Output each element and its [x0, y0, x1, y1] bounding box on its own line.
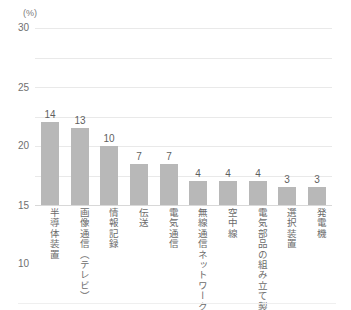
- category-label: 情報記録: [100, 208, 118, 250]
- bar-value-label: 3: [284, 175, 290, 185]
- bar: [41, 122, 59, 205]
- bar-value-label: 13: [74, 116, 85, 126]
- category-label: 電気部品の組み立て製造: [249, 208, 267, 310]
- category-label: 空中線: [219, 208, 237, 239]
- bar-group: 4: [219, 28, 237, 205]
- y-axis-tick-label: 30: [18, 23, 29, 33]
- y-axis-tick-label: 20: [18, 141, 29, 151]
- y-axis-tick-label: 25: [18, 83, 29, 93]
- bar-value-label: 4: [225, 169, 231, 179]
- bar-value-label: 10: [103, 134, 114, 144]
- bar: [71, 128, 89, 205]
- category-label: 発電機: [308, 208, 326, 239]
- bottom-divider: [18, 303, 336, 304]
- bar-group: 10: [100, 28, 118, 205]
- category-label: 電気通信: [160, 208, 178, 250]
- bars-layer: 1413107744433: [35, 28, 332, 205]
- bar: [308, 187, 326, 205]
- category-label: 選択装置: [278, 208, 296, 250]
- bar: [160, 164, 178, 205]
- y-axis-unit-label: (%): [23, 8, 37, 18]
- y-axis-tick-label: 15: [18, 201, 29, 211]
- bar-value-label: 3: [314, 175, 320, 185]
- bar: [100, 146, 118, 205]
- y-axis-tick-label: 10: [18, 259, 29, 269]
- category-label: 画像通信（テレビ）: [71, 208, 89, 302]
- bar-value-label: 14: [44, 110, 55, 120]
- bar: [219, 181, 237, 205]
- bar-value-label: 7: [166, 152, 172, 162]
- bar-group: 4: [189, 28, 207, 205]
- bar-group: 3: [308, 28, 326, 205]
- category-label: 半導体装置: [41, 208, 59, 260]
- bar-value-label: 7: [136, 152, 142, 162]
- category-axis-labels: 半導体装置画像通信（テレビ）情報記録伝送電気通信無線通信ネットワーク空中線電気部…: [35, 208, 332, 308]
- bar-group: 14: [41, 28, 59, 205]
- category-label: 無線通信ネットワーク: [189, 208, 207, 310]
- bar-chart: (%) 3025201510501413107744433 半導体装置画像通信（…: [0, 0, 351, 310]
- axis-baseline: 0: [35, 205, 332, 206]
- bar: [278, 187, 296, 205]
- bar-group: 7: [130, 28, 148, 205]
- plot-area: 3025201510501413107744433: [35, 28, 332, 205]
- bar: [130, 164, 148, 205]
- category-label: 伝送: [130, 208, 148, 229]
- bar-value-label: 4: [255, 169, 261, 179]
- bar-group: 13: [71, 28, 89, 205]
- bar-group: 3: [278, 28, 296, 205]
- bar: [189, 181, 207, 205]
- bar: [249, 181, 267, 205]
- bar-value-label: 4: [195, 169, 201, 179]
- bar-group: 4: [249, 28, 267, 205]
- bar-group: 7: [160, 28, 178, 205]
